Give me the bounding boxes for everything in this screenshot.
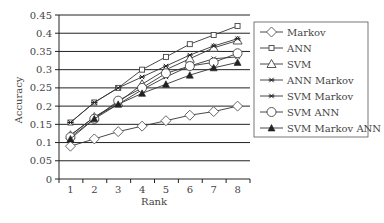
data-point-ann [163,54,168,59]
y-tick-label: 0.2 [36,101,52,112]
y-tick-label: 0.15 [30,119,52,130]
data-point-svm-markov-ann [234,59,241,66]
legend: MarkovANNSVMANN MarkovSVM MarkovSVM ANNS… [254,22,381,137]
data-point-ann [187,42,192,47]
data-point-svm-ann [161,69,170,78]
legend-label: SVM ANN [287,107,339,118]
x-axis-ticks: 12345678 [59,179,250,195]
x-tick-label: 8 [234,184,240,195]
data-point-ann [140,67,145,72]
data-point-svm-markov-ann [186,72,193,79]
data-point-markov [233,101,243,111]
gridlines [59,15,250,161]
legend-item-markov: Markov [260,27,326,38]
data-point-svm-ann [233,49,242,58]
legend-label: SVM Markov [287,91,354,102]
y-tick-label: 0.05 [30,155,52,166]
legend-marker-ann [269,46,274,51]
legend-label: SVM [287,59,311,70]
y-tick-label: 0.45 [30,10,52,21]
data-point-markov [209,107,219,117]
y-tick-label: 0.3 [36,64,52,75]
data-point-markov [185,110,195,120]
y-axis-title: Accuracy [13,76,24,124]
line-chart: 00.050.10.150.20.250.30.350.40.45 123456… [0,0,384,223]
x-tick-label: 4 [139,184,145,195]
data-point-markov [113,127,123,137]
x-tick-label: 6 [187,184,193,195]
x-tick-label: 5 [163,184,169,195]
data-point-ann [211,33,216,38]
series-group [65,23,242,151]
y-axis-ticks: 00.050.10.150.20.250.30.350.40.45 [30,10,59,185]
legend-marker-svm-ann [267,108,276,117]
x-tick-label: 2 [91,184,97,195]
data-point-ann [235,23,240,28]
data-point-ann-markov [139,75,145,79]
x-axis-title: Rank [141,196,168,207]
legend-label: ANN [286,43,312,54]
legend-label: ANN Markov [286,75,354,86]
legend-label: SVM Markov ANN [287,123,381,134]
y-tick-label: 0.35 [30,46,52,57]
y-tick-label: 0.4 [36,28,52,39]
series-markov [65,101,242,151]
legend-label: Markov [287,27,326,38]
data-point-svm-markov-ann [162,81,169,88]
series-svm-ann [66,49,242,142]
y-tick-label: 0 [46,174,52,185]
legend-item-svm-ann: SVM ANN [260,107,339,118]
x-tick-label: 7 [211,184,217,195]
x-tick-label: 1 [67,184,73,195]
y-tick-label: 0.25 [30,82,52,93]
data-point-markov [137,121,147,131]
y-tick-label: 0.1 [36,137,52,148]
x-tick-label: 3 [115,184,121,195]
data-point-svm-ann [185,62,194,71]
axes [59,15,250,179]
